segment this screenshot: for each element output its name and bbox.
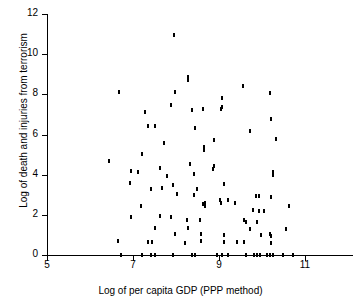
data-point xyxy=(186,218,188,222)
data-point xyxy=(200,232,202,236)
data-point xyxy=(245,253,247,257)
data-point xyxy=(272,173,274,177)
data-point xyxy=(269,253,271,257)
data-point xyxy=(176,192,178,196)
data-point xyxy=(220,107,222,111)
data-point xyxy=(147,240,149,244)
data-point xyxy=(166,174,168,178)
plot-area xyxy=(47,14,305,255)
data-point xyxy=(272,253,274,257)
data-point xyxy=(270,241,272,245)
data-point xyxy=(221,96,223,100)
x-axis-line xyxy=(47,255,353,256)
data-point xyxy=(204,204,206,208)
data-point xyxy=(242,84,244,88)
data-point xyxy=(258,209,260,213)
data-point xyxy=(269,91,271,95)
data-point xyxy=(203,148,205,152)
data-point xyxy=(184,241,186,245)
data-point xyxy=(170,103,172,107)
data-point xyxy=(259,253,261,257)
data-point xyxy=(187,226,189,230)
data-point xyxy=(270,117,272,121)
data-point xyxy=(275,137,277,141)
data-point xyxy=(243,240,245,244)
data-point xyxy=(191,253,193,257)
data-point xyxy=(258,194,260,198)
data-point xyxy=(172,253,174,257)
data-point xyxy=(118,90,120,94)
data-point xyxy=(227,198,229,202)
data-point xyxy=(147,124,149,128)
data-point xyxy=(150,253,152,257)
data-point xyxy=(193,193,195,197)
data-point xyxy=(161,186,163,190)
x-tick-label: 5 xyxy=(44,259,50,270)
data-point xyxy=(223,233,225,237)
data-point xyxy=(140,204,142,208)
data-point xyxy=(174,232,176,236)
x-tick-label: 9 xyxy=(216,259,222,270)
data-point xyxy=(270,195,272,199)
data-point xyxy=(200,239,202,243)
data-point xyxy=(260,233,262,237)
data-point xyxy=(256,253,258,257)
data-point xyxy=(223,240,225,244)
data-point xyxy=(249,129,251,133)
data-point xyxy=(141,152,143,156)
data-point xyxy=(212,167,214,171)
data-point xyxy=(154,253,156,257)
data-point xyxy=(150,187,152,191)
data-point xyxy=(187,78,189,82)
data-point xyxy=(245,220,247,224)
y-tick-label: 0 xyxy=(0,248,38,259)
data-point xyxy=(220,201,222,205)
data-point xyxy=(137,170,139,174)
data-point xyxy=(196,187,198,191)
data-point xyxy=(285,227,287,231)
data-point xyxy=(141,253,143,257)
data-point xyxy=(173,33,175,37)
data-point xyxy=(117,239,119,243)
data-point xyxy=(252,208,254,212)
data-point xyxy=(223,182,225,186)
data-point xyxy=(191,108,193,112)
data-point xyxy=(227,253,229,257)
data-point xyxy=(194,253,196,257)
data-point xyxy=(174,90,176,94)
data-point xyxy=(199,218,201,222)
x-tick-label: 7 xyxy=(130,259,136,270)
data-point xyxy=(193,172,195,176)
data-point xyxy=(159,166,161,170)
data-point xyxy=(172,183,174,187)
data-point xyxy=(255,194,257,198)
data-point xyxy=(144,110,146,114)
data-point xyxy=(194,126,196,130)
data-point xyxy=(151,240,153,244)
scatter-plot-figure: 024681012 57911 Log of death and injurie… xyxy=(0,0,361,307)
data-point xyxy=(256,220,258,224)
data-point xyxy=(292,253,294,257)
data-point xyxy=(216,253,218,257)
data-point xyxy=(154,124,156,128)
data-point xyxy=(288,204,290,208)
data-point xyxy=(282,253,284,257)
data-point xyxy=(213,138,215,142)
data-point xyxy=(159,214,161,218)
data-point xyxy=(270,234,272,238)
data-point xyxy=(120,253,122,257)
x-tick-label: 11 xyxy=(300,259,310,270)
data-point xyxy=(202,107,204,111)
x-axis-title: Log of per capita GDP (PPP method) xyxy=(0,285,361,296)
data-point xyxy=(249,227,251,231)
y-axis-title: Log of death and injuries from terrorism xyxy=(18,1,29,241)
data-point xyxy=(130,169,132,173)
data-point xyxy=(154,226,156,230)
data-point xyxy=(234,201,236,205)
data-point xyxy=(130,215,132,219)
data-point xyxy=(189,162,191,166)
data-point xyxy=(221,253,223,257)
data-point xyxy=(236,240,238,244)
data-point xyxy=(263,209,265,213)
data-point xyxy=(170,215,172,219)
